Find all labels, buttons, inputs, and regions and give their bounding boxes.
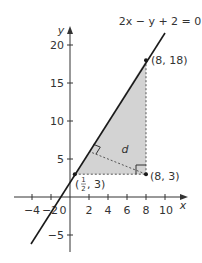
coordinate-diagram: −4 −2 0 2 4 6 8 10 x −5 5 10 15 20 y 2x … — [0, 0, 202, 263]
point-label-8-3: (8, 3) — [150, 170, 180, 183]
y-tick-label: 15 — [50, 77, 64, 90]
svg-text:1: 1 — [81, 176, 85, 184]
svg-text:2: 2 — [81, 185, 85, 193]
x-tick-label: 8 — [143, 204, 150, 217]
point-label-half-3: ( 1 2 , 3) — [75, 176, 105, 193]
y-tick-label: 20 — [50, 39, 64, 52]
point-8-18 — [144, 58, 148, 62]
x-tick-label: 4 — [105, 204, 112, 217]
x-tick-label: 2 — [86, 204, 93, 217]
distance-label: d — [122, 143, 130, 156]
point-half-3 — [73, 172, 77, 176]
equation-label: 2x − y + 2 = 0 — [119, 15, 202, 28]
y-tick-label: 10 — [50, 115, 64, 128]
point-8-3 — [144, 172, 148, 176]
y-axis-label: y — [57, 24, 65, 37]
point-label-8-18: (8, 18) — [151, 54, 188, 67]
y-tick-label: 5 — [57, 153, 64, 166]
x-tick-label: 10 — [159, 204, 173, 217]
x-axis-label: x — [179, 199, 187, 212]
x-tick-label: −4 — [24, 204, 40, 217]
x-tick-label: 6 — [124, 204, 131, 217]
svg-text:, 3): , 3) — [87, 178, 105, 191]
origin-label: 0 — [60, 204, 67, 217]
y-tick-label: −5 — [48, 229, 64, 242]
svg-text:(: ( — [75, 178, 79, 191]
